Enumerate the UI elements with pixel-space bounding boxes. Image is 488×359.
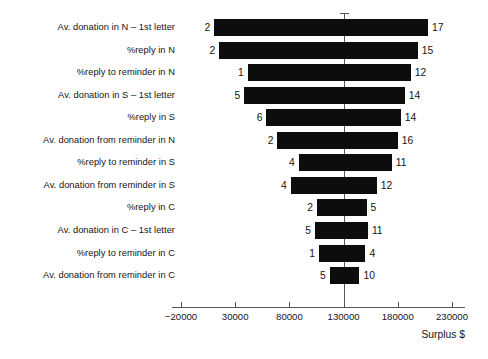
- bar: [315, 222, 368, 239]
- bar-low-value: 2: [291, 202, 313, 213]
- category-label: %reply in S: [5, 112, 175, 123]
- bar: [244, 87, 405, 104]
- x-axis-tick-label: 180000: [368, 311, 428, 322]
- bar-high-value: 14: [405, 112, 431, 123]
- bar-high-value: 12: [381, 180, 407, 191]
- bar-low-value: 5: [218, 90, 240, 101]
- bar-low-value: 2: [188, 22, 210, 33]
- bar: [266, 109, 400, 126]
- bar-low-value: 4: [273, 157, 295, 168]
- x-axis-line: [172, 307, 465, 308]
- bar-high-value: 12: [415, 67, 441, 78]
- bar: [214, 19, 428, 36]
- category-label: %reply to reminder in C: [5, 248, 175, 259]
- category-label: Av. donation in C – 1st letter: [5, 225, 175, 236]
- bar-high-value: 5: [371, 202, 397, 213]
- category-label: %reply to reminder in S: [5, 157, 175, 168]
- bar-high-value: 10: [363, 270, 389, 281]
- bar-high-value: 17: [432, 22, 458, 33]
- category-label: Av. donation in N – 1st letter: [5, 22, 175, 33]
- x-axis-tick-label: 230000: [422, 311, 482, 322]
- bar-high-value: 4: [369, 248, 395, 259]
- bar-low-value: 1: [293, 248, 315, 259]
- bar: [319, 245, 366, 262]
- x-axis-tick-label: 30000: [205, 311, 265, 322]
- x-axis-tick: [235, 302, 236, 307]
- bar-low-value: 1: [222, 67, 244, 78]
- category-label: Av. donation from reminder in C: [5, 270, 175, 281]
- x-axis-tick-label: 80000: [259, 311, 319, 322]
- bar: [291, 177, 377, 194]
- category-label: Av. donation in S – 1st letter: [5, 90, 175, 101]
- x-axis-tick-label: 130000: [314, 311, 374, 322]
- x-axis-title: Surplus $: [0, 329, 488, 341]
- category-label: Av. donation from reminder in S: [5, 180, 175, 191]
- bar: [248, 64, 411, 81]
- bar: [277, 132, 397, 149]
- bar-high-value: 15: [422, 45, 448, 56]
- bar-low-value: 2: [193, 45, 215, 56]
- category-label: Av. donation from reminder in N: [5, 135, 175, 146]
- bar-high-value: 14: [409, 90, 435, 101]
- x-axis-tick: [181, 302, 182, 307]
- x-axis-tick-label: −20000: [151, 311, 211, 322]
- bar: [317, 199, 367, 216]
- bar-high-value: 11: [372, 225, 398, 236]
- x-axis-tick: [344, 302, 345, 307]
- category-label: %reply in N: [5, 45, 175, 56]
- base-value-cap: [340, 13, 349, 14]
- bar-low-value: 6: [240, 112, 262, 123]
- x-axis-tick: [452, 302, 453, 307]
- bar: [330, 267, 360, 284]
- category-label: %reply to reminder in N: [5, 67, 175, 78]
- bar-low-value: 5: [289, 225, 311, 236]
- bar: [219, 42, 418, 59]
- bar-low-value: 5: [304, 270, 326, 281]
- category-label: %reply in C: [5, 202, 175, 213]
- x-axis-tick: [289, 302, 290, 307]
- tornado-chart: Av. donation in N – 1st letter217%reply …: [0, 0, 488, 359]
- bar-high-value: 16: [402, 135, 428, 146]
- bar: [299, 154, 392, 171]
- bar-low-value: 4: [265, 180, 287, 191]
- x-axis-tick: [398, 302, 399, 307]
- bar-high-value: 11: [396, 157, 422, 168]
- bar-low-value: 2: [251, 135, 273, 146]
